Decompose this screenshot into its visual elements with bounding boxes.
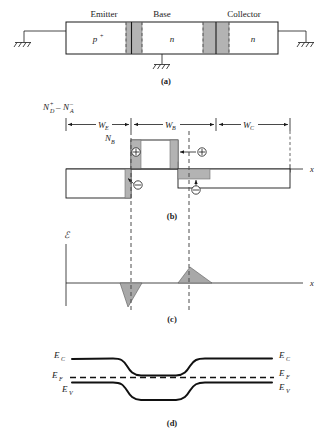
region-label-base: Base [153, 9, 171, 19]
positive-charge-bc [180, 148, 206, 156]
ground-icon [14, 43, 31, 48]
doping-label-base: n [170, 34, 175, 44]
bc-depletion-charge-positive [170, 140, 178, 169]
panel-a: Emitter Base Collector p + n n [14, 9, 314, 86]
panel-b-axis-label: x [309, 164, 314, 174]
width-label-wb-sub: B [172, 125, 176, 131]
width-arrow-wb: W B [134, 120, 214, 132]
na-symbol: N [62, 102, 70, 112]
collector-terminal [278, 31, 314, 47]
positive-charge-be [132, 148, 140, 156]
be-depletion-region [126, 23, 142, 54]
panel-d-label-ev-left: E V [61, 384, 74, 396]
panel-d-tag: (d) [167, 418, 178, 428]
region-label-collector: Collector [227, 9, 261, 19]
conduction-band-curve [72, 359, 272, 376]
na-superscript: – [69, 101, 74, 107]
nb-label-sub: B [111, 139, 115, 145]
ev-right-base: E [278, 382, 285, 392]
ef-right-base: E [278, 368, 285, 378]
width-label-we-sub: E [104, 125, 109, 131]
nd-superscript: + [50, 101, 54, 107]
valence-band-curve [72, 383, 272, 401]
panel-c-yaxis-label: ℰ [64, 230, 71, 240]
region-label-emitter: Emitter [91, 9, 118, 19]
ev-left-sub: V [69, 390, 74, 396]
nd-subscript: D [49, 108, 55, 114]
ev-left-base: E [61, 384, 68, 394]
panel-d: E C E F E V E C E F E V (d) [51, 350, 291, 428]
ground-icon [297, 43, 314, 48]
panel-d-label-ef-right: E F [278, 368, 290, 380]
emitter-lead [24, 31, 66, 42]
ef-right-sub: F [285, 374, 290, 380]
ec-left-sub: C [61, 356, 66, 362]
panel-c: ℰ x (c) [64, 215, 315, 324]
width-arrow-we: W E [68, 120, 129, 132]
ef-left-base: E [51, 370, 58, 380]
ev-right-sub: V [286, 388, 291, 394]
panel-a-tag: (a) [161, 76, 171, 86]
panel-b-yaxis-label: N D + – N A – [42, 101, 74, 115]
figure-root: Emitter Base Collector p + n n [0, 0, 330, 448]
doping-label-emitter-base: p [92, 34, 98, 44]
width-label-wc-sub: C [250, 125, 255, 131]
be-depletion-charge-negative [125, 169, 131, 198]
panel-b-tag: (b) [167, 211, 178, 221]
panel-b: N D + – N A – W E [42, 101, 314, 222]
collector-lead [278, 31, 306, 42]
panel-c-tag: (c) [167, 314, 177, 324]
ground-icon [153, 65, 170, 70]
base-terminal [153, 54, 170, 69]
nb-label: N B [104, 133, 115, 145]
emitter-terminal [14, 31, 66, 47]
ec-right-base: E [278, 350, 285, 360]
panel-d-label-ef-left: E F [51, 370, 63, 382]
bc-field-triangle [178, 267, 212, 283]
bc-depletion-charge-negative [178, 169, 210, 179]
na-subscript: A [69, 108, 74, 114]
panel-d-label-ec-left: E C [53, 350, 66, 362]
panel-d-label-ev-right: E V [278, 382, 291, 394]
panel-d-label-ec-right: E C [278, 350, 291, 362]
ec-right-sub: C [286, 356, 291, 362]
width-arrow-wc: W C [219, 120, 288, 132]
panel-c-axis-label: x [309, 278, 314, 288]
ec-left-base: E [53, 350, 60, 360]
minus-symbol: – [55, 102, 61, 112]
figure-svg: Emitter Base Collector p + n n [0, 0, 330, 448]
doping-label-collector: n [251, 34, 256, 44]
nd-symbol: N [42, 102, 50, 112]
ef-left-sub: F [58, 376, 63, 382]
emitter-negative-charge-block [66, 169, 131, 198]
